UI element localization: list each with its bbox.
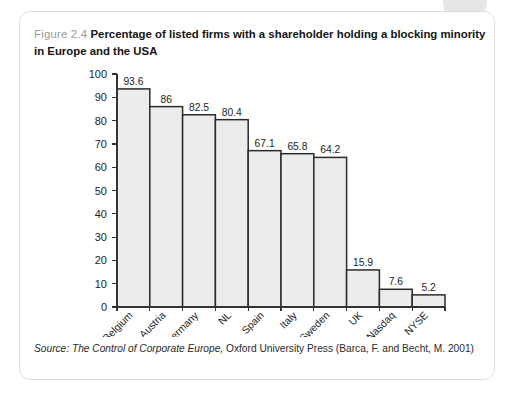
- x-category-label: Germany: [163, 309, 201, 337]
- bar: [215, 120, 248, 307]
- y-tick-label: 70: [95, 138, 107, 150]
- x-axis-category-labels: BelgiumAustriaGermanyNLSpainItalySwedenU…: [101, 307, 445, 337]
- bar-value-label: 82.5: [189, 102, 209, 113]
- bar-value-label: 64.2: [320, 144, 340, 155]
- bar: [183, 115, 216, 307]
- y-axis-ticks: 0102030405060708090100: [89, 68, 117, 313]
- bar: [412, 295, 445, 307]
- y-tick-label: 50: [95, 185, 107, 197]
- figure-number: Figure 2.4: [34, 28, 87, 40]
- source-title: The Control of Corporate Europe,: [72, 343, 223, 354]
- x-category-label: Italy: [278, 309, 300, 331]
- bar: [281, 154, 314, 307]
- source-note: Source: The Control of Corporate Europe,…: [34, 342, 486, 356]
- y-tick-label: 60: [95, 161, 107, 173]
- figure-caption: Figure 2.4 Percentage of listed firms wi…: [34, 26, 486, 59]
- bar-value-label: 65.8: [287, 141, 307, 152]
- bar: [248, 151, 281, 307]
- x-category-label: Spain: [240, 309, 267, 336]
- bar-value-label: 86: [160, 94, 172, 105]
- bar-value-label: 7.6: [389, 276, 404, 287]
- bar-value-label: 5.2: [421, 282, 436, 293]
- bar: [117, 89, 150, 307]
- bar: [150, 107, 183, 307]
- bar: [314, 157, 347, 307]
- y-tick-label: 80: [95, 115, 107, 127]
- y-tick-label: 0: [101, 301, 107, 313]
- y-tick-label: 20: [95, 254, 107, 266]
- y-tick-label: 10: [95, 278, 107, 290]
- figure-caption-text: Percentage of listed firms with a shareh…: [34, 28, 485, 57]
- source-rest: Oxford University Press (Barca, F. and B…: [226, 343, 474, 354]
- x-category-label: Sweden: [298, 309, 332, 337]
- figure-card: Figure 2.4 Percentage of listed firms wi…: [19, 11, 495, 380]
- chart-svg: 0102030405060708090100 93.68682.580.467.…: [20, 62, 496, 337]
- x-category-label: Austria: [137, 309, 168, 337]
- x-category-label: Belgium: [101, 310, 135, 337]
- bar: [379, 289, 412, 307]
- x-category-label: NL: [216, 309, 233, 326]
- x-category-label: UK: [347, 310, 365, 328]
- source-prefix: Source:: [34, 343, 69, 354]
- bar: [347, 270, 380, 307]
- bar-value-label: 67.1: [255, 138, 275, 149]
- bar-value-label: 15.9: [353, 257, 373, 268]
- bar-value-label: 93.6: [123, 76, 143, 87]
- bar-chart: 0102030405060708090100 93.68682.580.467.…: [20, 62, 496, 337]
- x-category-label: NYSE: [402, 310, 430, 337]
- bar-value-label: 80.4: [222, 107, 242, 118]
- y-tick-label: 90: [95, 91, 107, 103]
- y-tick-label: 40: [95, 208, 107, 220]
- bars-group: [117, 89, 445, 307]
- x-category-label: Nasdaq: [364, 309, 397, 337]
- y-tick-label: 30: [95, 231, 107, 243]
- y-tick-label: 100: [89, 68, 107, 80]
